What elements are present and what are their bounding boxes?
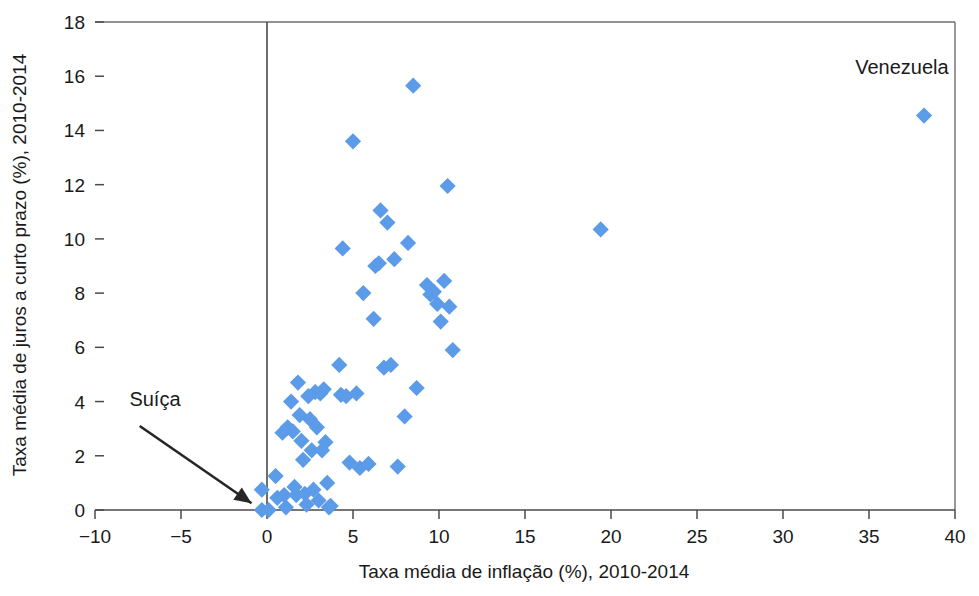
x-tick-label: 40 — [944, 526, 965, 547]
annotation-arrow-line — [140, 426, 252, 503]
scatter-point — [290, 374, 306, 390]
y-tick-label: 10 — [64, 229, 85, 250]
annotation-label: Venezuela — [855, 56, 949, 78]
y-tick-label: 2 — [74, 446, 85, 467]
scatter-point — [345, 133, 361, 149]
scatter-point — [366, 311, 382, 327]
x-tick-label: 15 — [514, 526, 535, 547]
scatter-point — [335, 240, 351, 256]
y-tick-label: 18 — [64, 12, 85, 33]
scatter-point — [441, 299, 457, 315]
scatter-chart-figure: −10−50510152025303540 024681012141618 Ve… — [0, 0, 979, 596]
y-tick-label: 6 — [74, 337, 85, 358]
scatter-point — [405, 78, 421, 94]
scatter-point — [433, 313, 449, 329]
y-tick-label: 8 — [74, 283, 85, 304]
y-axis-title: Taxa média de juros a curto prazo (%), 2… — [9, 53, 30, 476]
x-tick-label: 5 — [348, 526, 359, 547]
scatter-point — [445, 342, 461, 358]
chart-annotations: VenezuelaSuíça — [129, 56, 949, 504]
x-axis-ticks: −10−50510152025303540 — [79, 510, 966, 547]
x-tick-label: 0 — [262, 526, 273, 547]
x-tick-label: −10 — [79, 526, 111, 547]
scatter-point — [593, 221, 609, 237]
x-tick-label: 35 — [858, 526, 879, 547]
scatter-point — [390, 459, 406, 475]
scatter-point — [319, 475, 335, 491]
y-axis-ticks: 024681012141618 — [64, 12, 104, 521]
scatter-point — [400, 235, 416, 251]
x-tick-label: 30 — [772, 526, 793, 547]
scatter-point — [409, 380, 425, 396]
scatter-point — [268, 468, 284, 484]
scatter-point — [331, 357, 347, 373]
x-tick-label: 20 — [600, 526, 621, 547]
scatter-point — [397, 408, 413, 424]
annotation-label: Suíça — [129, 388, 181, 410]
y-tick-label: 4 — [74, 392, 85, 413]
scatter-point — [386, 251, 402, 267]
scatter-point — [916, 107, 932, 123]
scatter-point — [355, 285, 371, 301]
chart-canvas: −10−50510152025303540 024681012141618 Ve… — [0, 0, 979, 596]
y-tick-label: 16 — [64, 66, 85, 87]
y-tick-label: 14 — [64, 120, 86, 141]
x-tick-label: 10 — [428, 526, 449, 547]
scatter-point — [436, 273, 452, 289]
plot-frame — [95, 22, 955, 510]
scatter-point — [440, 178, 456, 194]
y-tick-label: 12 — [64, 175, 85, 196]
data-point-markers — [254, 78, 932, 518]
x-tick-label: −5 — [170, 526, 192, 547]
annotation-arrow-head — [233, 487, 251, 503]
scatter-point — [283, 393, 299, 409]
x-axis-title: Taxa média de inflação (%), 2010-2014 — [359, 561, 690, 582]
y-tick-label: 0 — [74, 500, 85, 521]
x-tick-label: 25 — [686, 526, 707, 547]
